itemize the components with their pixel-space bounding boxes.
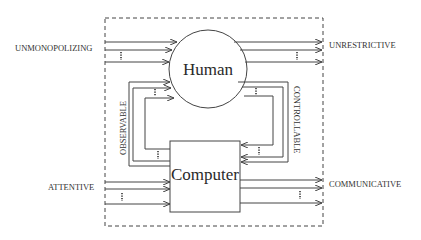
computer-output-arrows — [240, 180, 322, 203]
computer-label: Computer — [171, 165, 239, 184]
observable-loop — [129, 82, 174, 166]
controllable-loop — [238, 82, 288, 162]
unmonopolizing-label: UNMONOPOLIZING — [15, 43, 92, 53]
human-input-arrows — [105, 42, 177, 62]
computer-node: Computer — [170, 141, 240, 212]
human-output-arrows — [234, 42, 322, 62]
human-computer-interaction-diagram: Human Computer UNMONOPOLIZING UNRESTRICT… — [0, 0, 421, 240]
communicative-label: COMMUNICATIVE — [329, 179, 401, 189]
attentive-label: ATTENTIVE — [48, 182, 94, 192]
controllable-label: CONTROLLABLE — [292, 86, 302, 154]
computer-input-arrows — [105, 182, 170, 204]
system-boundary — [105, 18, 323, 226]
unrestrictive-label: UNRESTRICTIVE — [329, 40, 396, 50]
human-label: Human — [183, 60, 234, 79]
observable-label: OBSERVABLE — [118, 101, 128, 155]
